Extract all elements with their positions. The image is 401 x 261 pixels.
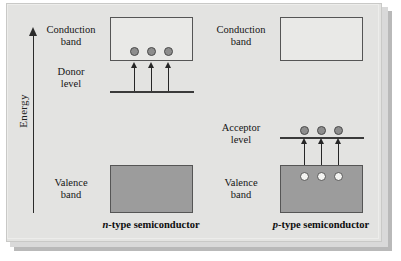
n-type-excitation-arrow-icon (168, 67, 169, 91)
p-type-excitation-arrow-icon (321, 143, 322, 165)
energy-axis-label: Energy (17, 81, 29, 141)
n-type-conduction-band-label-line2: band (35, 36, 107, 48)
n-type-valence-band-label-line1: Valence (35, 177, 107, 189)
n-type-conduction-electron (130, 47, 139, 56)
p-type-excitation-arrow-icon (304, 143, 305, 165)
n-type-caption-rest: -type semiconductor (108, 219, 199, 230)
p-type-acceptor-electron (317, 126, 326, 135)
p-type-valence-band-label-line1: Valence (205, 177, 277, 189)
n-type-conduction-band-label-line1: Conduction (35, 24, 107, 36)
p-type-excitation-arrow-icon (338, 143, 339, 165)
p-type-acceptor-level-label-line2: level (205, 134, 277, 146)
p-type-conduction-band-box (280, 17, 363, 61)
n-type-conduction-electron (164, 47, 173, 56)
p-type-conduction-band-label-line2: band (205, 36, 277, 48)
n-type-donor-level-line (110, 91, 194, 93)
p-type-acceptor-electron (300, 126, 309, 135)
band-diagram-figure: Energy Conduction band Donor level Valen… (0, 0, 401, 261)
n-type-valence-band-label-line2: band (35, 189, 107, 201)
energy-axis-line (33, 33, 34, 213)
p-type-valence-hole (317, 172, 326, 181)
n-type-donor-level-label-line2: level (35, 78, 107, 90)
p-type-acceptor-level-label-line1: Acceptor (205, 122, 277, 134)
n-type-caption: n-type semiconductor (61, 219, 241, 230)
p-type-valence-hole (334, 172, 343, 181)
n-type-donor-level-label-line1: Donor (35, 66, 107, 78)
n-type-conduction-electron (147, 47, 156, 56)
n-type-excitation-arrow-icon (151, 67, 152, 91)
p-type-caption-rest: -type semiconductor (278, 219, 369, 230)
p-type-valence-hole (300, 172, 309, 181)
p-type-acceptor-electron (334, 126, 343, 135)
n-type-excitation-arrow-icon (134, 67, 135, 91)
p-type-conduction-band-label-line1: Conduction (205, 24, 277, 36)
n-type-valence-band-box (110, 165, 193, 213)
p-type-caption: p-type semiconductor (231, 219, 401, 230)
p-type-valence-band-label-line2: band (205, 189, 277, 201)
